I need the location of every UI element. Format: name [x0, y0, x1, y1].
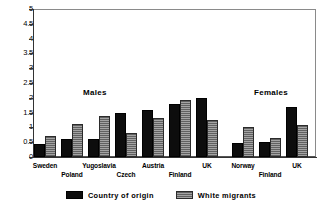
- x-axis-label-poland-1: Poland: [61, 171, 82, 178]
- bar-czech-country-of-origin: [115, 113, 126, 157]
- bar-chart: 54.543.532.521.510.50 SwedenPolandYugosl…: [0, 0, 322, 207]
- bar-uk-white-migrants: [297, 125, 308, 157]
- legend-label: White migrants: [198, 191, 256, 200]
- x-axis-label-uk-9: UK: [292, 162, 301, 169]
- bar-sweden-white-migrants: [45, 136, 56, 157]
- bar-austria-white-migrants: [153, 118, 164, 157]
- bar-poland-country-of-origin: [61, 139, 72, 157]
- bar-finland-white-migrants: [180, 100, 191, 157]
- bar-norway-country-of-origin: [232, 143, 243, 157]
- legend-swatch-migrant-icon: [176, 191, 193, 199]
- bar-uk-country-of-origin: [286, 107, 297, 157]
- x-axis-labels: SwedenPolandYugoslaviaCzechAustriaFinlan…: [0, 157, 322, 183]
- legend-item-origin[interactable]: Country of origin: [66, 191, 154, 200]
- chart-legend: Country of originWhite migrants: [0, 186, 322, 204]
- bar-austria-country-of-origin: [142, 110, 153, 157]
- bar-uk-white-migrants: [207, 120, 218, 157]
- bar-finland-white-migrants: [270, 138, 281, 157]
- bar-yugoslavia-white-migrants: [99, 116, 110, 157]
- group-annotation-males: Males: [83, 88, 107, 97]
- bars-layer: [0, 0, 322, 165]
- bar-uk-country-of-origin: [196, 98, 207, 157]
- x-axis-label-austria-4: Austria: [142, 162, 164, 169]
- bar-poland-white-migrants: [72, 124, 83, 157]
- x-axis-label-finland-5: Finland: [169, 171, 192, 178]
- group-annotation-females: Females: [254, 88, 288, 97]
- bar-finland-country-of-origin: [259, 142, 270, 157]
- bar-czech-white-migrants: [126, 133, 137, 157]
- x-axis-label-finland-8: Finland: [259, 171, 282, 178]
- bar-norway-white-migrants: [243, 127, 254, 157]
- legend-swatch-origin-icon: [66, 191, 83, 199]
- legend-item-migrant[interactable]: White migrants: [176, 191, 256, 200]
- legend-label: Country of origin: [88, 191, 154, 200]
- x-axis-label-norway-7: Norway: [231, 162, 254, 169]
- bar-yugoslavia-country-of-origin: [88, 139, 99, 157]
- x-axis-label-uk-6: UK: [202, 162, 211, 169]
- x-axis-label-sweden-0: Sweden: [33, 162, 57, 169]
- bar-finland-country-of-origin: [169, 104, 180, 157]
- x-axis-label-yugoslavia-2: Yugoslavia: [82, 162, 115, 169]
- x-axis-label-czech-3: Czech: [117, 171, 136, 178]
- bar-sweden-country-of-origin: [34, 144, 45, 157]
